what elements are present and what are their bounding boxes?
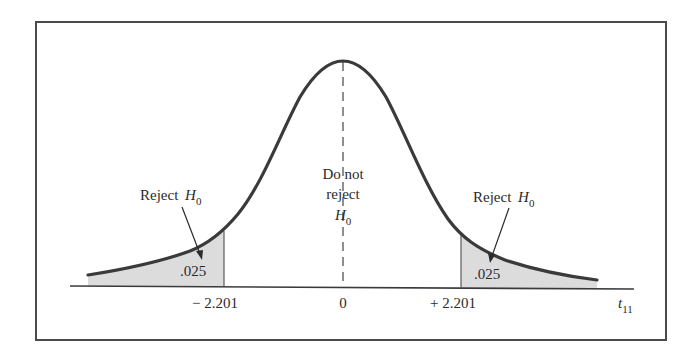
tick-label-negative: − 2.201	[192, 295, 238, 311]
t-distribution-figure: Reject H0 Reject H0 Do not reject H0 .02…	[0, 0, 699, 355]
left-reject-label: Reject H0	[140, 187, 202, 207]
center-label-h0: H0	[334, 207, 352, 227]
tick-label-positive: + 2.201	[430, 295, 476, 311]
right-reject-label: Reject H0	[473, 189, 535, 209]
left-area-label: .025	[180, 263, 206, 279]
axis-label-t11: t11	[618, 295, 633, 315]
left-reject-arrow	[182, 207, 200, 254]
right-reject-arrow	[492, 208, 509, 256]
center-label-line2: reject	[326, 186, 360, 202]
right-area-label: .025	[474, 266, 500, 282]
center-label-line1: Do not	[322, 166, 364, 182]
tick-label-zero: 0	[339, 295, 347, 311]
